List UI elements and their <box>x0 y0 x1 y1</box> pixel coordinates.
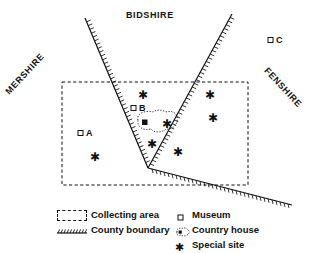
legend-label-special-site: Special site <box>192 239 244 251</box>
asterisk-icon: ✱ <box>175 239 189 251</box>
museum-marker-A <box>78 131 83 136</box>
special-site-marker: ✱ <box>173 145 183 159</box>
legend-item-country-house: Country house <box>175 223 259 237</box>
dashed-rectangle-icon <box>57 209 87 221</box>
legend-column-left: Collecting area <box>57 208 170 238</box>
legend-item-museum: Museum <box>175 208 259 222</box>
legend-column-right: Museum Country house ✱ Special site <box>175 208 259 253</box>
special-site-marker: ✱ <box>208 111 218 125</box>
special-site-marker: ✱ <box>205 88 215 102</box>
special-site-markers: ✱ ✱ ✱ ✱ ✱ ✱ ✱ <box>90 88 218 164</box>
county-boundary-right-arm <box>148 14 234 168</box>
legend-label-country-house: Country house <box>192 224 259 236</box>
museum-label-C: C <box>276 35 283 45</box>
museum-marker-C <box>268 38 273 43</box>
country-house-filled-square <box>142 120 148 126</box>
hatched-line-icon <box>57 224 87 236</box>
legend-item-special-site: ✱ Special site <box>175 238 259 252</box>
map-legend: Collecting area <box>57 208 307 252</box>
legend-item-collecting-area: Collecting area <box>57 208 170 222</box>
special-site-marker: ✱ <box>162 117 172 131</box>
museum-marker-B <box>131 106 136 111</box>
special-site-marker: ✱ <box>90 150 100 164</box>
special-site-marker: ✱ <box>138 88 148 102</box>
open-square-icon <box>175 209 189 221</box>
collecting-area-map-figure: ✱ ✱ ✱ ✱ ✱ ✱ ✱ BIDSHIRE MERSHIRE FENSHIRE… <box>0 0 311 253</box>
blob-icon <box>175 224 189 236</box>
museum-label-B: B <box>139 103 146 113</box>
museum-label-A: A <box>86 128 93 138</box>
svg-text:✱: ✱ <box>175 241 184 253</box>
legend-label-county-boundary: County boundary <box>91 224 170 236</box>
county-boundary-spur <box>148 168 292 208</box>
county-label-bidshire: BIDSHIRE <box>126 10 174 20</box>
legend-item-county-boundary: County boundary <box>57 223 170 237</box>
legend-label-collecting-area: Collecting area <box>91 209 159 221</box>
special-site-marker: ✱ <box>147 137 157 151</box>
legend-label-museum: Museum <box>192 209 231 221</box>
